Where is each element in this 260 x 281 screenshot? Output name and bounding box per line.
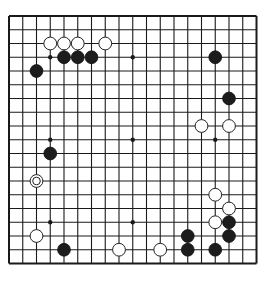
white-stone[interactable] — [195, 120, 208, 133]
white-stone[interactable] — [209, 216, 222, 229]
black-stone[interactable] — [30, 65, 43, 78]
go-board[interactable] — [0, 0, 260, 281]
black-stone[interactable] — [209, 51, 222, 64]
star-point — [48, 55, 52, 59]
white-stone[interactable] — [209, 188, 222, 201]
white-stone[interactable] — [99, 37, 112, 50]
white-stone[interactable] — [223, 120, 236, 133]
black-stone[interactable] — [223, 92, 236, 105]
white-stone[interactable] — [44, 37, 57, 50]
star-point — [131, 55, 135, 59]
black-stone[interactable] — [85, 51, 98, 64]
white-stone[interactable] — [30, 175, 43, 188]
black-stone[interactable] — [209, 243, 222, 256]
black-stone[interactable] — [181, 230, 194, 243]
black-stone[interactable] — [44, 147, 57, 160]
white-stone[interactable] — [223, 202, 236, 215]
star-point — [131, 220, 135, 224]
black-stone[interactable] — [223, 230, 236, 243]
white-stone[interactable] — [113, 243, 126, 256]
black-stone[interactable] — [223, 216, 236, 229]
black-stone[interactable] — [58, 51, 71, 64]
star-point — [48, 220, 52, 224]
white-stone[interactable] — [154, 243, 167, 256]
black-stone[interactable] — [181, 243, 194, 256]
white-stone[interactable] — [71, 37, 84, 50]
black-stone[interactable] — [71, 51, 84, 64]
white-stone[interactable] — [30, 230, 43, 243]
white-stone[interactable] — [58, 37, 71, 50]
star-point — [48, 138, 52, 142]
star-point — [131, 138, 135, 142]
black-stone[interactable] — [58, 243, 71, 256]
star-point — [213, 138, 217, 142]
